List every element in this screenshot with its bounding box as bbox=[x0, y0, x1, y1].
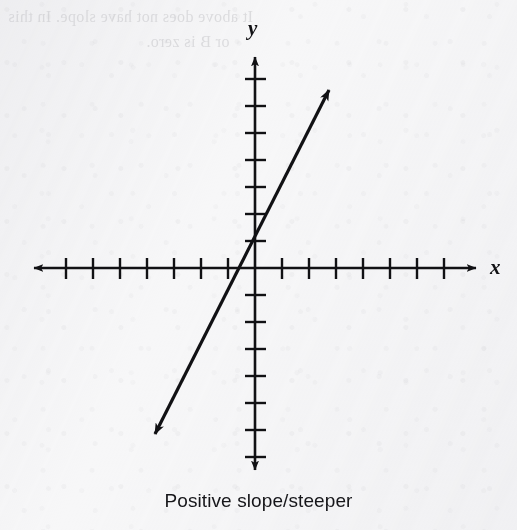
y-axis-label: y bbox=[248, 16, 257, 41]
figure-caption: Positive slope/steeper bbox=[0, 490, 517, 512]
plotted-line-positive-slope bbox=[155, 90, 329, 434]
scanned-textbook-figure: It above does not have slope. In this or… bbox=[0, 0, 517, 530]
coordinate-plane-graph bbox=[0, 0, 517, 530]
x-axis-label: x bbox=[490, 255, 501, 280]
